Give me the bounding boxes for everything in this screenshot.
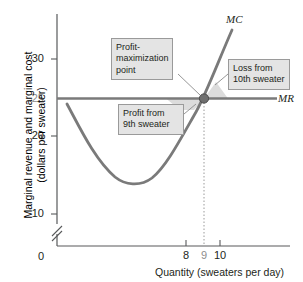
- y-axis-title-line1: Marginal revenue and marginal cost: [22, 40, 35, 230]
- x-axis-title: Quantity (sweaters per day): [155, 266, 284, 278]
- profit-max-callout-line2: maximization: [116, 53, 168, 64]
- x-tick-label-10: 10: [210, 249, 230, 262]
- profit-callout: Profit from 9th sweater: [118, 104, 184, 135]
- loss-callout: Loss from 10th sweater: [228, 59, 290, 90]
- profit-max-point-marker: [199, 94, 208, 103]
- economics-chart-figure: 30 25 20 10 0 8 9 10 Quantity (sweaters …: [0, 0, 303, 282]
- loss-leader-line: [215, 74, 228, 85]
- profit-max-callout-line3: point: [116, 65, 168, 76]
- mr-curve-label: MR: [278, 92, 294, 105]
- profit-max-callout-line1: Profit-: [116, 42, 168, 53]
- y-axis-title-line2: (dollars per sweater): [35, 40, 48, 230]
- profit-callout-line2: 9th sweater: [123, 119, 179, 130]
- mc-curve-label: MC: [226, 13, 243, 26]
- y-tick-label-0: 0: [20, 250, 44, 263]
- loss-callout-line2: 10th sweater: [233, 74, 285, 85]
- loss-callout-line1: Loss from: [233, 63, 285, 74]
- profit-max-callout: Profit- maximization point: [111, 38, 173, 80]
- x-tick-label-8: 8: [176, 249, 196, 262]
- profit-callout-line1: Profit from: [123, 108, 179, 119]
- profit-max-leader-line: [178, 74, 200, 95]
- y-axis-title: Marginal revenue and marginal cost (doll…: [22, 40, 52, 230]
